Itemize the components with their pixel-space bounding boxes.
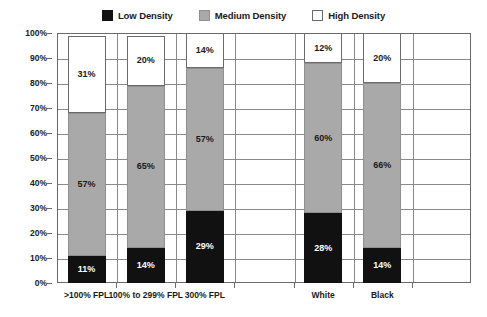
y-axis-tick-mark	[47, 58, 52, 59]
x-axis-tick-mark	[412, 283, 413, 288]
y-axis-tick-label: 100%	[25, 28, 47, 38]
bar-segment-high-density[interactable]: 31%	[68, 36, 106, 114]
bar-segment-value-label: 20%	[373, 54, 391, 63]
y-axis-tick-label: 30%	[30, 203, 47, 213]
legend-label-low-density: Low Density	[118, 10, 173, 21]
bar-segment-low-density[interactable]: 28%	[304, 213, 342, 283]
bar-segment-low-density[interactable]: 29%	[186, 211, 224, 284]
bars-layer: 11%57%31%14%65%20%29%57%14%28%60%12%14%6…	[57, 33, 471, 283]
bar-segment-value-label: 14%	[137, 261, 155, 270]
y-axis-tick-label: 60%	[30, 128, 47, 138]
bar-segment-value-label: 28%	[314, 244, 332, 253]
bar-segment-low-density[interactable]: 14%	[127, 248, 165, 283]
bar-segment-medium-density[interactable]: 57%	[186, 68, 224, 211]
y-axis-tick-mark	[47, 208, 52, 209]
legend-swatch-high-density-icon	[312, 10, 323, 21]
bar-segment-value-label: 29%	[196, 242, 214, 251]
bar-segment-low-density[interactable]: 14%	[363, 248, 401, 283]
legend-item-high-density: High Density	[312, 10, 385, 21]
cropped-caption	[40, 309, 440, 317]
bar-segment-value-label: 60%	[314, 134, 332, 143]
y-axis-tick-label: 50%	[30, 153, 47, 163]
x-axis-category-label: 100% to 299% FPL	[108, 290, 183, 300]
bar-column[interactable]: 28%60%12%	[304, 33, 342, 283]
legend-label-medium-density: Medium Density	[215, 10, 286, 21]
bar-segment-high-density[interactable]: 20%	[127, 36, 165, 86]
y-axis-tick-mark	[47, 258, 52, 259]
bar-segment-high-density[interactable]: 20%	[363, 33, 401, 83]
x-axis-tick-mark	[294, 283, 295, 288]
bar-segment-value-label: 14%	[196, 46, 214, 55]
y-axis-tick-mark	[47, 133, 52, 134]
x-axis-tick-mark	[175, 283, 176, 288]
bar-segment-value-label: 12%	[314, 44, 332, 53]
y-axis-tick-mark	[47, 158, 52, 159]
bar-segment-medium-density[interactable]: 66%	[363, 83, 401, 248]
y-axis: 100%90%80%70%60%50%40%30%20%10%0%	[0, 33, 52, 283]
x-axis-tick-mark	[116, 283, 117, 288]
y-axis-tick-mark	[47, 283, 52, 284]
bar-column[interactable]: 29%57%14%	[186, 33, 224, 283]
bar-column[interactable]: 14%66%20%	[363, 33, 401, 283]
y-axis-tick-label: 70%	[30, 103, 47, 113]
bar-column[interactable]: 14%65%20%	[127, 33, 165, 283]
y-axis-tick-mark	[47, 83, 52, 84]
x-axis-category-label: 300% FPL	[185, 290, 225, 300]
bar-segment-high-density[interactable]: 14%	[186, 33, 224, 68]
bar-segment-low-density[interactable]: 11%	[68, 256, 106, 284]
y-axis-tick-label: 10%	[30, 253, 47, 263]
bar-segment-medium-density[interactable]: 57%	[68, 113, 106, 256]
y-axis-tick-mark	[47, 233, 52, 234]
bar-segment-medium-density[interactable]: 60%	[304, 63, 342, 213]
legend-item-low-density: Low Density	[102, 10, 173, 21]
bar-segment-value-label: 14%	[373, 261, 391, 270]
legend-label-high-density: High Density	[328, 10, 385, 21]
bar-segment-high-density[interactable]: 12%	[304, 33, 342, 63]
y-axis-tick-label: 40%	[30, 178, 47, 188]
legend-swatch-medium-density-icon	[199, 10, 210, 21]
y-axis-tick-label: 0%	[35, 278, 47, 288]
stacked-bar-chart: Low Density Medium Density High Density …	[0, 0, 487, 317]
y-axis-tick-mark	[47, 33, 52, 34]
bar-column[interactable]: 11%57%31%	[68, 33, 106, 283]
legend-swatch-low-density-icon	[102, 10, 113, 21]
bar-segment-value-label: 66%	[373, 161, 391, 170]
y-axis-tick-label: 80%	[30, 78, 47, 88]
bar-segment-medium-density[interactable]: 65%	[127, 86, 165, 249]
chart-legend: Low Density Medium Density High Density	[0, 5, 487, 25]
x-axis-category-label: Black	[371, 290, 394, 300]
bar-segment-value-label: 57%	[78, 180, 96, 189]
bar-segment-value-label: 31%	[78, 70, 96, 79]
x-axis-category-label: White	[312, 290, 335, 300]
bar-segment-value-label: 65%	[137, 162, 155, 171]
legend-item-medium-density: Medium Density	[199, 10, 286, 21]
y-axis-tick-mark	[47, 108, 52, 109]
bar-segment-value-label: 57%	[196, 135, 214, 144]
y-axis-tick-label: 20%	[30, 228, 47, 238]
y-axis-tick-label: 90%	[30, 53, 47, 63]
y-axis-tick-mark	[47, 183, 52, 184]
x-axis-tick-mark	[353, 283, 354, 288]
bar-segment-value-label: 20%	[137, 56, 155, 65]
x-axis-category-label: >100% FPL	[64, 290, 109, 300]
x-axis-tick-mark	[234, 283, 235, 288]
bar-segment-value-label: 11%	[78, 265, 96, 274]
